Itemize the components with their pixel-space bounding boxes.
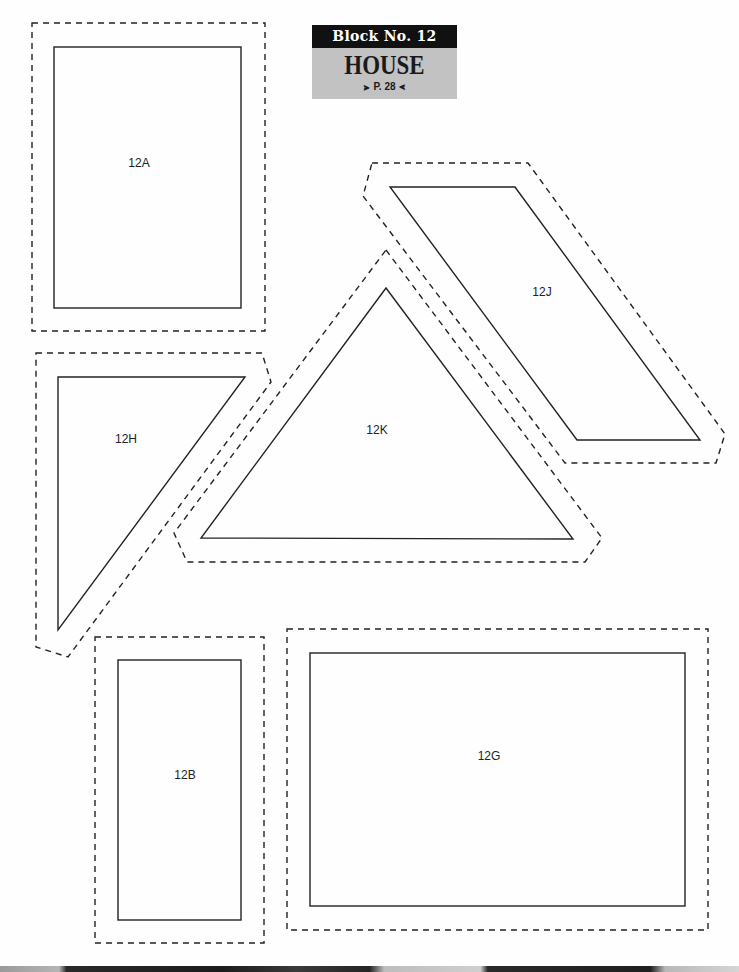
- piece-label-12B: 12B: [174, 768, 195, 782]
- piece-12G: [287, 629, 708, 930]
- piece-label-12H: 12H: [115, 432, 137, 446]
- template-pieces: [0, 0, 739, 972]
- piece-12K-outline: [201, 288, 573, 539]
- piece-12G-seam-allowance: [287, 629, 708, 930]
- piece-12B-seam-allowance: [95, 637, 264, 943]
- piece-12B: [95, 637, 264, 943]
- piece-label-12G: 12G: [478, 749, 501, 763]
- pattern-page: Block No. 12 HOUSE ⪢P. 28⪡: [0, 0, 739, 972]
- piece-12H: [36, 353, 271, 657]
- piece-12B-outline: [118, 660, 241, 920]
- piece-12J-outline: [390, 187, 700, 440]
- piece-12A-seam-allowance: [32, 23, 265, 331]
- piece-label-12A: 12A: [128, 156, 149, 170]
- piece-12G-outline: [310, 653, 685, 906]
- piece-label-12K: 12K: [366, 423, 387, 437]
- piece-12A-outline: [54, 47, 241, 308]
- bottom-photo-strip: [0, 966, 739, 972]
- piece-12J: [363, 163, 725, 463]
- piece-12A: [32, 23, 265, 331]
- piece-12H-outline: [58, 377, 245, 630]
- piece-12J-seam-allowance: [363, 163, 725, 463]
- piece-label-12J: 12J: [532, 285, 551, 299]
